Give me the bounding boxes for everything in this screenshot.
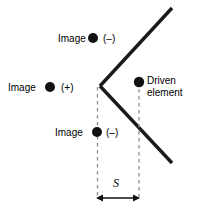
image-bottom-sign: (–) xyxy=(106,127,118,138)
spacing-label: S xyxy=(113,176,119,191)
image-left-label: Image xyxy=(8,82,36,93)
image-left-sign: (+) xyxy=(61,82,74,93)
diagram-canvas xyxy=(0,0,201,213)
image-charge-dot-bottom-negative xyxy=(92,127,102,137)
image-top-sign: (–) xyxy=(103,33,115,44)
spacing-arrow-head-left xyxy=(96,195,103,202)
image-bottom-label: Image xyxy=(55,127,83,138)
image-top-label: Image xyxy=(58,33,86,44)
image-charge-dot-top-negative xyxy=(88,33,98,43)
driven-element-dot xyxy=(134,77,144,87)
antenna-image-diagram: Image (–) Image (+) Image (–) Driven ele… xyxy=(0,0,201,213)
image-charge-dot-left-positive xyxy=(45,82,55,92)
driven-element-label: Driven element xyxy=(147,75,197,98)
